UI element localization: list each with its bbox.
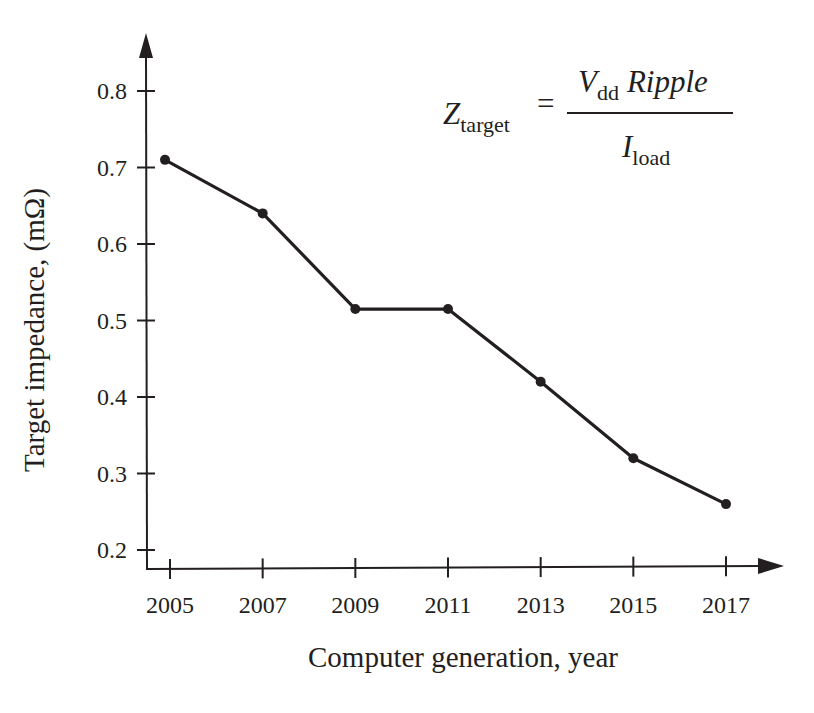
data-point-marker xyxy=(628,453,638,463)
data-point-marker xyxy=(258,208,268,218)
x-axis-title: Computer generation, year xyxy=(308,641,618,673)
formula-numerator: VddRipple xyxy=(578,64,708,105)
data-point-marker xyxy=(721,499,731,509)
y-tick-label: 0.2 xyxy=(97,537,127,563)
y-tick-label: 0.5 xyxy=(97,308,127,334)
data-series-line xyxy=(165,160,726,504)
x-axis-arrow-icon xyxy=(758,558,784,574)
x-tick-label: 2017 xyxy=(702,592,750,618)
data-point-marker xyxy=(443,304,453,314)
x-tick-label: 2007 xyxy=(239,592,287,618)
x-axis-ticks: 2005200720092011201320152017 xyxy=(146,556,750,618)
formula-annotation: Ztarget = VddRipple Iload xyxy=(443,64,733,170)
x-tick-label: 2009 xyxy=(331,592,379,618)
data-point-marker xyxy=(160,155,170,165)
y-tick-label: 0.6 xyxy=(97,231,127,257)
x-tick-label: 2005 xyxy=(146,592,194,618)
data-point-marker xyxy=(536,377,546,387)
chart-canvas: 0.20.30.40.50.60.70.8 200520072009201120… xyxy=(0,0,814,713)
y-tick-label: 0.7 xyxy=(97,155,127,181)
y-axis-title: Target impedance, (mΩ) xyxy=(18,188,51,472)
y-tick-label: 0.8 xyxy=(97,78,127,104)
y-axis-line xyxy=(146,52,147,569)
x-tick-label: 2015 xyxy=(609,592,657,618)
y-tick-label: 0.4 xyxy=(97,384,127,410)
data-series-markers xyxy=(160,155,731,509)
formula-equals: = xyxy=(537,86,554,121)
y-tick-label: 0.3 xyxy=(97,461,127,487)
x-tick-label: 2013 xyxy=(517,592,565,618)
x-axis-line xyxy=(146,566,760,569)
line-chart: 0.20.30.40.50.60.70.8 200520072009201120… xyxy=(0,0,814,713)
formula-denominator: Iload xyxy=(621,129,670,170)
data-point-marker xyxy=(350,304,360,314)
formula-lhs: Ztarget xyxy=(443,96,510,137)
y-axis-arrow-icon xyxy=(139,33,153,58)
x-tick-label: 2011 xyxy=(424,592,471,618)
